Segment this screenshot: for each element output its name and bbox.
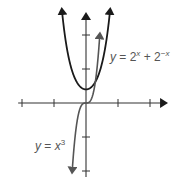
label-exp-sum: y = 2x + 2−x xyxy=(109,49,170,64)
chart-container: y = 2x + 2−xy = x3 xyxy=(0,0,188,186)
chart-svg: y = 2x + 2−xy = x3 xyxy=(0,0,188,186)
label-cubic: y = x3 xyxy=(34,138,66,153)
